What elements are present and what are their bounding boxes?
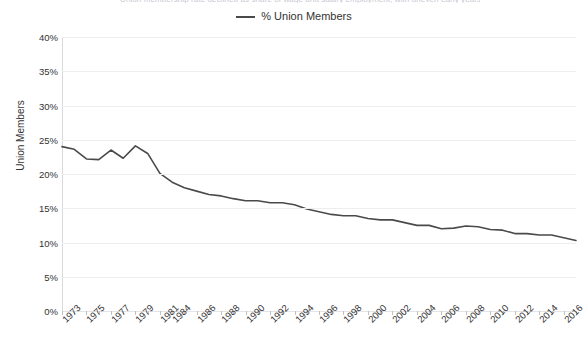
- y-axis-tick-label: 10%: [22, 237, 58, 248]
- gridline: [62, 174, 576, 175]
- y-axis-tick-label: 15%: [22, 203, 58, 214]
- y-axis-tick-label: 30%: [22, 100, 58, 111]
- y-axis-tick-label: 35%: [22, 66, 58, 77]
- gridline: [62, 140, 576, 141]
- gridline: [62, 277, 576, 278]
- chart-container: Union membership rate declined as share …: [0, 0, 588, 353]
- y-axis-tick-label: 25%: [22, 134, 58, 145]
- y-axis-tick-label: 5%: [22, 271, 58, 282]
- gridline: [62, 243, 576, 244]
- gridline: [62, 37, 576, 38]
- y-axis-tick-label: 20%: [22, 169, 58, 180]
- y-axis-tick-label: 40%: [22, 32, 58, 43]
- y-axis-labels: 0%5%10%15%20%25%30%35%40%: [18, 0, 58, 353]
- gridline: [62, 208, 576, 209]
- gridline: [62, 106, 576, 107]
- plot-area: [62, 37, 576, 311]
- x-axis-labels: 1973197519771979198119841986198819901992…: [0, 311, 588, 353]
- legend-line-swatch-union-members: [236, 16, 255, 18]
- gridline: [62, 71, 576, 72]
- chart-legend: % Union Members: [0, 11, 588, 22]
- clipped-chart-title: Union membership rate declined as share …: [120, 0, 480, 3]
- legend-label-union-members: % Union Members: [261, 11, 351, 22]
